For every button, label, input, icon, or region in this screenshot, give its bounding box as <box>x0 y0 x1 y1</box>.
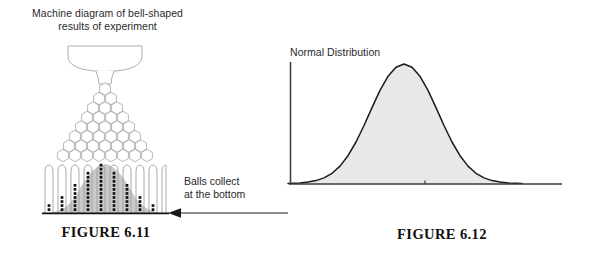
ball <box>87 180 90 183</box>
ball <box>100 164 103 167</box>
ball <box>87 184 90 187</box>
ball <box>100 172 103 175</box>
ball <box>100 192 103 195</box>
figure-page: Machine diagram of bell-shaped results o… <box>0 0 598 256</box>
ball <box>100 200 103 203</box>
ball <box>87 200 90 203</box>
ball <box>87 188 90 191</box>
ball <box>87 204 90 207</box>
ball <box>87 176 90 179</box>
ball <box>74 196 77 199</box>
ball <box>74 188 77 191</box>
ball <box>100 188 103 191</box>
ball <box>74 200 77 203</box>
ball <box>113 204 116 207</box>
ball <box>100 168 103 171</box>
ball <box>126 184 129 187</box>
ball <box>113 172 116 175</box>
normal-distribution-panel: Normal Distribution FIGURE 6.12 <box>270 0 598 256</box>
ball <box>61 196 64 199</box>
ball <box>100 180 103 183</box>
normal-curve-area <box>288 64 522 184</box>
ball <box>61 204 64 207</box>
ball <box>126 188 129 191</box>
ball <box>87 192 90 195</box>
ball <box>139 204 142 207</box>
ball <box>100 184 103 187</box>
ball <box>74 184 77 187</box>
ball <box>113 200 116 203</box>
ball <box>126 200 129 203</box>
ball <box>139 196 142 199</box>
ball <box>126 192 129 195</box>
ball <box>87 196 90 199</box>
ball <box>61 200 64 203</box>
ball <box>126 208 129 211</box>
ball <box>48 208 51 211</box>
ball <box>100 196 103 199</box>
ball <box>87 208 90 211</box>
normal-distribution-chart <box>270 0 598 226</box>
ball <box>100 204 103 207</box>
ball <box>113 196 116 199</box>
ball <box>113 188 116 191</box>
ball <box>113 176 116 179</box>
ball <box>113 180 116 183</box>
ball <box>152 208 155 211</box>
ball <box>100 208 103 211</box>
ball <box>139 200 142 203</box>
ball <box>126 196 129 199</box>
ball <box>126 204 129 207</box>
ball <box>113 208 116 211</box>
ball <box>87 172 90 175</box>
ball <box>74 204 77 207</box>
ball <box>100 176 103 179</box>
ball <box>113 192 116 195</box>
ball <box>61 208 64 211</box>
ball <box>152 204 155 207</box>
hopper-funnel-icon <box>68 46 142 84</box>
figure-6-11-caption: FIGURE 6.11 <box>42 224 170 241</box>
figure-6-12-caption: FIGURE 6.12 <box>372 226 512 243</box>
ball <box>139 208 142 211</box>
ball <box>74 208 77 211</box>
ball <box>74 192 77 195</box>
ball <box>113 184 116 187</box>
ball <box>48 204 51 207</box>
hexagon-peg-array <box>58 83 153 162</box>
